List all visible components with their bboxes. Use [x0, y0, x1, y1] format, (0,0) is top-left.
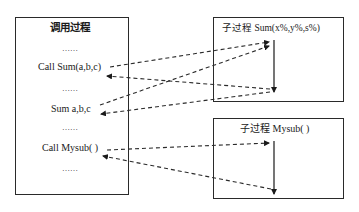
sub-return-to-call-sum-arrow [107, 76, 270, 89]
sum-to-sub-arrow [100, 46, 269, 105]
mysub-return-arrow [103, 156, 271, 189]
call-mysub-to-sub-arrow [107, 143, 269, 150]
arrows-layer [0, 0, 359, 212]
call-sum-to-sub-arrow [110, 42, 269, 67]
